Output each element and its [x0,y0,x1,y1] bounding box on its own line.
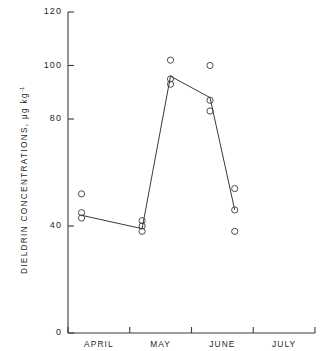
data-point [207,108,213,114]
x-tick-label-june: JUNE [192,339,252,349]
y-tick-label-80: 80 [28,113,62,123]
mean-line-series [82,76,235,228]
x-tick-label-april: APRIL [69,339,129,349]
x-axis-ticks [68,327,315,333]
data-point [232,228,238,234]
y-axis-ticks [68,12,74,333]
data-point [78,191,84,197]
axes-group [68,12,315,333]
plot-area [0,0,321,351]
y-tick-label-120: 120 [28,6,62,16]
y-tick-label-100: 100 [28,60,62,70]
y-tick-label-0: 0 [28,327,62,337]
dieldrin-concentration-chart: DIELDRIN CONCENTRATIONS, μg kg-1 0408010… [0,0,321,351]
y-tick-label-40: 40 [28,220,62,230]
x-tick-label-may: MAY [131,339,191,349]
data-points-group [78,57,237,234]
data-point [232,185,238,191]
data-point [167,57,173,63]
data-point [207,62,213,68]
x-tick-label-july: JULY [254,339,314,349]
mean-polyline [82,76,235,228]
